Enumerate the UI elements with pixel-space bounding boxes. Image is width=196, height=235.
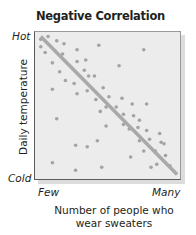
data-point	[46, 35, 50, 39]
data-point	[114, 105, 118, 109]
data-point	[85, 89, 89, 93]
data-point	[136, 126, 140, 130]
x-tick-many: Many	[152, 186, 180, 198]
data-point	[75, 60, 79, 64]
data-point	[96, 139, 100, 143]
chart-title: Negative Correlation	[36, 9, 165, 23]
data-point	[74, 143, 78, 147]
data-point	[72, 82, 76, 86]
data-point	[164, 154, 168, 158]
y-axis-label: Daily temperature	[17, 59, 29, 155]
data-point	[55, 39, 59, 43]
data-point	[142, 48, 146, 52]
scatter-plot	[35, 32, 180, 179]
data-point	[87, 74, 91, 78]
x-axis-label-line-1: Number of people who	[52, 204, 176, 217]
data-point	[122, 113, 126, 117]
x-axis-label: Number of people who wear sweaters	[52, 204, 176, 230]
data-point	[85, 145, 89, 149]
data-point	[93, 74, 97, 78]
data-point	[162, 142, 166, 146]
data-point	[62, 42, 66, 46]
data-point	[148, 138, 152, 142]
data-point	[75, 92, 79, 96]
data-point	[43, 51, 47, 55]
x-axis-label-line-2: wear sweaters	[52, 217, 176, 230]
data-point	[84, 58, 88, 62]
data-point	[55, 117, 59, 121]
data-point	[142, 149, 146, 153]
data-point	[39, 45, 43, 49]
data-point	[101, 86, 105, 90]
data-point	[75, 48, 79, 52]
data-point	[98, 110, 102, 114]
data-point	[120, 96, 124, 100]
data-point	[129, 155, 133, 159]
data-point	[82, 68, 86, 72]
data-point	[145, 129, 149, 133]
data-point	[100, 165, 104, 169]
y-tick-cold: Cold	[8, 172, 31, 184]
data-point	[155, 163, 159, 167]
data-point	[51, 88, 55, 92]
y-tick-hot: Hot	[12, 30, 30, 42]
data-point	[58, 70, 62, 74]
data-point	[64, 79, 68, 83]
data-point	[145, 102, 149, 106]
data-point	[138, 118, 142, 122]
data-point	[117, 64, 121, 68]
data-point	[97, 43, 101, 47]
data-point	[130, 102, 134, 106]
x-tick-few: Few	[38, 186, 59, 198]
data-point	[74, 168, 78, 172]
data-point	[51, 161, 55, 165]
data-point	[132, 114, 136, 118]
data-point	[104, 124, 108, 128]
data-point	[158, 132, 162, 136]
data-point	[94, 98, 98, 102]
data-point	[107, 95, 111, 99]
data-point	[51, 61, 55, 65]
trend-line	[41, 36, 177, 174]
plot-area	[34, 31, 181, 180]
data-point	[149, 165, 153, 169]
